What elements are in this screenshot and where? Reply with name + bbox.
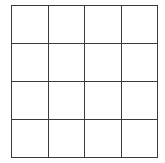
grid-cell: [12, 120, 49, 158]
grid-cell: [85, 82, 122, 120]
grid-cell: [49, 6, 86, 44]
grid-cell: [122, 44, 159, 82]
grid-cell: [49, 44, 86, 82]
grid-cell: [85, 44, 122, 82]
grid-cell: [12, 82, 49, 120]
grid-cell: [122, 120, 159, 158]
grid-cell: [12, 44, 49, 82]
grid-cell: [122, 82, 159, 120]
grid-4x4: [11, 5, 158, 158]
grid-cell: [85, 120, 122, 158]
grid-cell: [49, 82, 86, 120]
grid-cell: [85, 6, 122, 44]
grid-cell: [12, 6, 49, 44]
grid-cell: [49, 120, 86, 158]
grid-cell: [122, 6, 159, 44]
